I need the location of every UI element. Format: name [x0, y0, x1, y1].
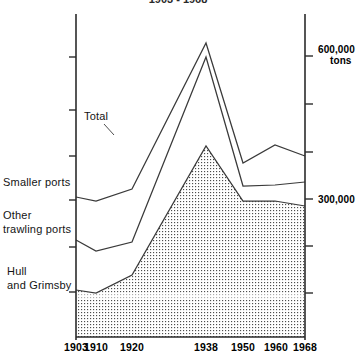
- x-tick-label-1920: 1920: [120, 341, 144, 353]
- figure-title-text: 1903 - 1968: [0, 0, 356, 5]
- stipple-light-band: [77, 293, 304, 300]
- right-label-300000: 300,000: [318, 194, 355, 205]
- figure-title-cropped: 1903 - 1968: [0, 0, 356, 9]
- plot-area: [76, 43, 305, 337]
- x-tick-label-1938: 1938: [194, 341, 218, 353]
- x-tick-label-1950: 1950: [231, 341, 255, 353]
- axis-right: [305, 14, 313, 340]
- chart-root: 1903 - 1968: [0, 0, 356, 357]
- label-other-trawling-ports-line1: Other: [3, 209, 32, 221]
- x-tick-label-1910: 1910: [84, 341, 108, 353]
- total-leader-line: [104, 124, 114, 135]
- label-smaller-ports: Smaller ports: [3, 176, 71, 188]
- x-tick-label-1960: 1960: [264, 341, 288, 353]
- label-hull-and-grimsby-line1: Hull: [7, 265, 27, 277]
- right-label-tons-unit: tons: [330, 55, 352, 66]
- label-other-trawling-ports-line2: trawling ports: [3, 223, 72, 235]
- label-total: Total: [84, 110, 108, 122]
- label-hull-and-grimsby-line2: and Grimsby: [7, 279, 72, 291]
- area-chart-svg: 600,000 tons 300,000 Smaller ports Other…: [0, 0, 356, 357]
- x-axis-tick-labels: 1903 1910 1920 1938 1950 1960 1968: [64, 341, 317, 353]
- right-label-600000: 600,000: [318, 44, 355, 55]
- x-tick-label-1968: 1968: [293, 341, 317, 353]
